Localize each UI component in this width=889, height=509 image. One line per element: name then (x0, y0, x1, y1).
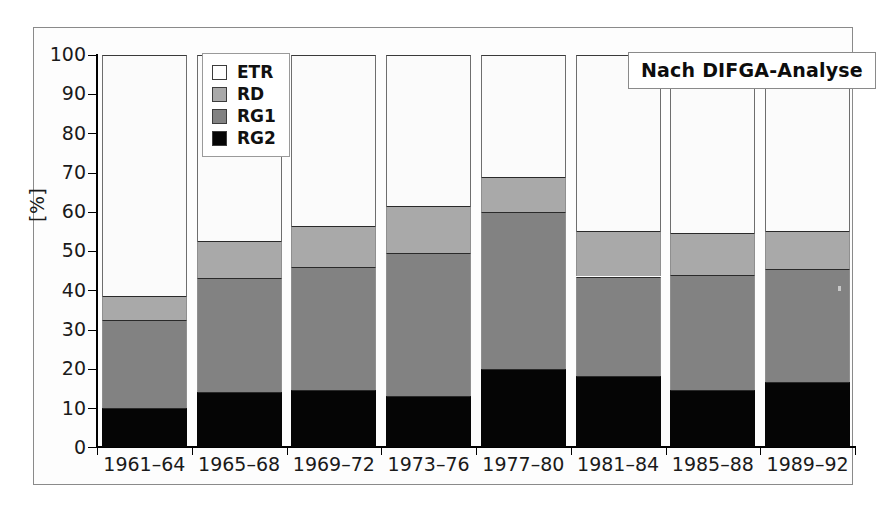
legend: ETR RD RG1 RG2 (202, 53, 290, 157)
legend-label-rd: RD (237, 86, 264, 103)
legend-item-rg2: RG2 (212, 127, 276, 149)
y-tick-label-40: 40 (36, 281, 86, 300)
x-tick-label-1973–76: 1973–76 (381, 455, 476, 474)
x-tick-label-1961–64: 1961–64 (97, 455, 192, 474)
bar-1981–84 (576, 55, 661, 447)
segment-rd-1989–92 (765, 231, 850, 268)
x-tick-4 (476, 447, 477, 455)
y-tick-0 (88, 447, 97, 448)
x-tick-label-1977–80: 1977–80 (476, 455, 571, 474)
x-tick-0 (97, 447, 98, 455)
annotation-box: Nach DIFGA-Analyse (628, 52, 876, 89)
segment-rg1-1961–64 (102, 320, 187, 408)
segment-rd-1973–76 (386, 206, 471, 253)
segment-rg1-1965–68 (197, 278, 282, 392)
legend-label-etr: ETR (237, 64, 273, 81)
segment-rg2-1981–84 (576, 376, 661, 447)
segment-rg2-1969–72 (291, 390, 376, 447)
segment-rg1-1969–72 (291, 267, 376, 390)
legend-item-rd: RD (212, 83, 276, 105)
y-axis-title: [%] (26, 188, 48, 222)
y-axis-tick-labels: 100 90 80 70 60 50 40 30 20 10 0 (30, 0, 86, 509)
x-tick-7 (760, 447, 761, 455)
y-tick-label-90: 90 (36, 84, 86, 103)
y-tick-label-50: 50 (36, 241, 86, 260)
x-tick-label-1981–84: 1981–84 (571, 455, 666, 474)
segment-rd-1985–88 (670, 233, 755, 274)
y-tick-90 (88, 94, 97, 95)
y-tick-label-10: 10 (36, 399, 86, 418)
bar-1977–80 (481, 55, 566, 447)
segment-rg1-1985–88 (670, 275, 755, 391)
y-tick-80 (88, 133, 97, 134)
segment-rd-1961–64 (102, 296, 187, 320)
segment-rg2-1965–68 (197, 392, 282, 447)
y-tick-20 (88, 369, 97, 370)
legend-label-rg2: RG2 (237, 130, 276, 147)
y-tick-30 (88, 330, 97, 331)
y-tick-40 (88, 290, 97, 291)
segment-rg2-1977–80 (481, 369, 566, 447)
x-tick-end (855, 447, 856, 455)
segment-etr-1973–76 (386, 55, 471, 206)
segment-rd-1969–72 (291, 226, 376, 267)
y-tick-label-70: 70 (36, 163, 86, 182)
bar-1961–64 (102, 55, 187, 447)
segment-rg2-1961–64 (102, 408, 187, 447)
x-tick-label-1985–88: 1985–88 (666, 455, 761, 474)
bar-1989–92 (765, 55, 850, 447)
bar-1973–76 (386, 55, 471, 447)
segment-rg2-1973–76 (386, 396, 471, 447)
y-tick-50 (88, 251, 97, 252)
figure-stacked-bar-chart: 100 90 80 70 60 50 40 30 20 10 0 [%] 196… (0, 0, 889, 509)
segment-etr-1977–80 (481, 55, 566, 177)
legend-swatch-rg2 (212, 131, 227, 146)
segment-rd-1965–68 (197, 241, 282, 278)
bar-1969–72 (291, 55, 376, 447)
x-tick-3 (381, 447, 382, 455)
scan-artifact (838, 286, 841, 291)
x-tick-label-1989–92: 1989–92 (760, 455, 855, 474)
segment-rg2-1985–88 (670, 390, 755, 447)
y-tick-label-30: 30 (36, 320, 86, 339)
segment-etr-1969–72 (291, 55, 376, 226)
y-tick-label-100: 100 (36, 45, 86, 64)
y-tick-label-80: 80 (36, 124, 86, 143)
x-tick-6 (666, 447, 667, 455)
legend-swatch-rd (212, 87, 227, 102)
legend-item-etr: ETR (212, 61, 276, 83)
legend-swatch-etr (212, 65, 227, 80)
x-tick-5 (571, 447, 572, 455)
x-tick-1 (192, 447, 193, 455)
legend-swatch-rg1 (212, 109, 227, 124)
y-tick-label-20: 20 (36, 359, 86, 378)
legend-label-rg1: RG1 (237, 108, 276, 125)
y-tick-60 (88, 212, 97, 213)
segment-rd-1981–84 (576, 231, 661, 276)
legend-item-rg1: RG1 (212, 105, 276, 127)
x-tick-label-1965–68: 1965–68 (192, 455, 287, 474)
y-tick-100 (88, 55, 97, 56)
y-tick-label-0: 0 (36, 438, 86, 457)
segment-etr-1961–64 (102, 55, 187, 296)
x-tick-2 (287, 447, 288, 455)
segment-rg2-1989–92 (765, 382, 850, 447)
segment-rg1-1981–84 (576, 277, 661, 377)
y-tick-70 (88, 173, 97, 174)
segment-rg1-1977–80 (481, 212, 566, 369)
segment-rg1-1973–76 (386, 253, 471, 396)
bar-1985–88 (670, 55, 755, 447)
x-tick-label-1969–72: 1969–72 (287, 455, 382, 474)
y-tick-10 (88, 408, 97, 409)
segment-rd-1977–80 (481, 177, 566, 212)
